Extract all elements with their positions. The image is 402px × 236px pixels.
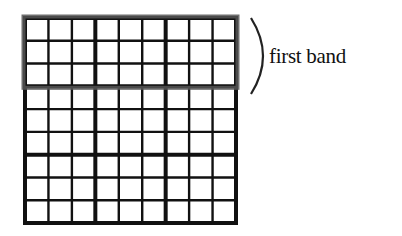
brace-bracket-icon <box>251 18 263 94</box>
first-band-highlight <box>24 17 238 88</box>
grid-lines <box>25 18 236 223</box>
first-band-label: first band <box>269 44 346 69</box>
diagram: first band <box>0 0 402 236</box>
sudoku-grid <box>0 0 402 236</box>
